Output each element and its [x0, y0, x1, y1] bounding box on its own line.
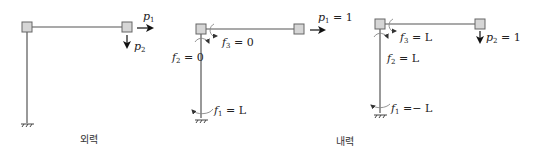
force-label-f3: f3 = L	[399, 31, 433, 45]
load-label-p2: p2	[134, 40, 146, 54]
load-label-p1: p1 = 1	[318, 11, 353, 25]
caption-internal-force: 내력	[336, 136, 354, 147]
frame-diagrams: p1 p2 외력 p1 = 1 f3 = 0 f2 = 0	[0, 0, 533, 154]
force-label-f1: f1 =− L	[390, 102, 433, 116]
fixed-support-icon	[374, 115, 387, 118]
moment-arrow-f3-icon	[210, 24, 217, 36]
load-label-p2: p2 = 1	[486, 31, 521, 45]
internal-forces-panel-p2: p2 = 1 f3 = L f2 = L f1 =− L 내력	[336, 19, 521, 147]
load-label-p1: p1	[143, 10, 155, 24]
moment-arrow-f3-icon	[389, 19, 396, 31]
joint-node-left	[22, 22, 32, 32]
fixed-support-icon	[195, 120, 208, 123]
internal-forces-panel-p1: p1 = 1 f3 = 0 f2 = 0 f1 = L	[171, 11, 353, 123]
joint-node-right	[475, 19, 485, 29]
moment-arrow-f2-icon	[195, 38, 209, 43]
caption-external-force: 외력	[80, 134, 98, 145]
force-label-f2: f2 = 0	[171, 51, 204, 65]
joint-node-left	[375, 19, 385, 29]
external-loads-panel: p1 p2 외력	[21, 10, 155, 145]
moment-arrow-f1-icon	[192, 109, 213, 114]
joint-node-left	[196, 24, 206, 34]
force-label-f2: f2 = L	[386, 52, 420, 66]
force-label-f1: f1 = L	[213, 104, 247, 118]
force-label-f3: f3 = 0	[221, 36, 254, 50]
moment-arrow-f2-icon	[374, 33, 388, 38]
fixed-support-icon	[21, 124, 34, 127]
joint-node-right	[122, 22, 132, 32]
joint-node-right	[294, 24, 304, 34]
